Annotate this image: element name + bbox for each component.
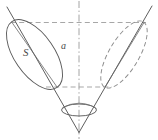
left-ellipse-group <box>0 10 74 99</box>
right-ellipse-major-axis <box>105 23 144 88</box>
figure-canvas <box>0 0 158 140</box>
left-ellipse-major-axis <box>12 23 57 88</box>
label-s: S <box>23 47 29 58</box>
left-cone-generator <box>7 7 79 133</box>
conic-section-figure: S a <box>0 0 158 140</box>
label-a: a <box>61 41 66 51</box>
left-ellipse <box>0 10 74 99</box>
